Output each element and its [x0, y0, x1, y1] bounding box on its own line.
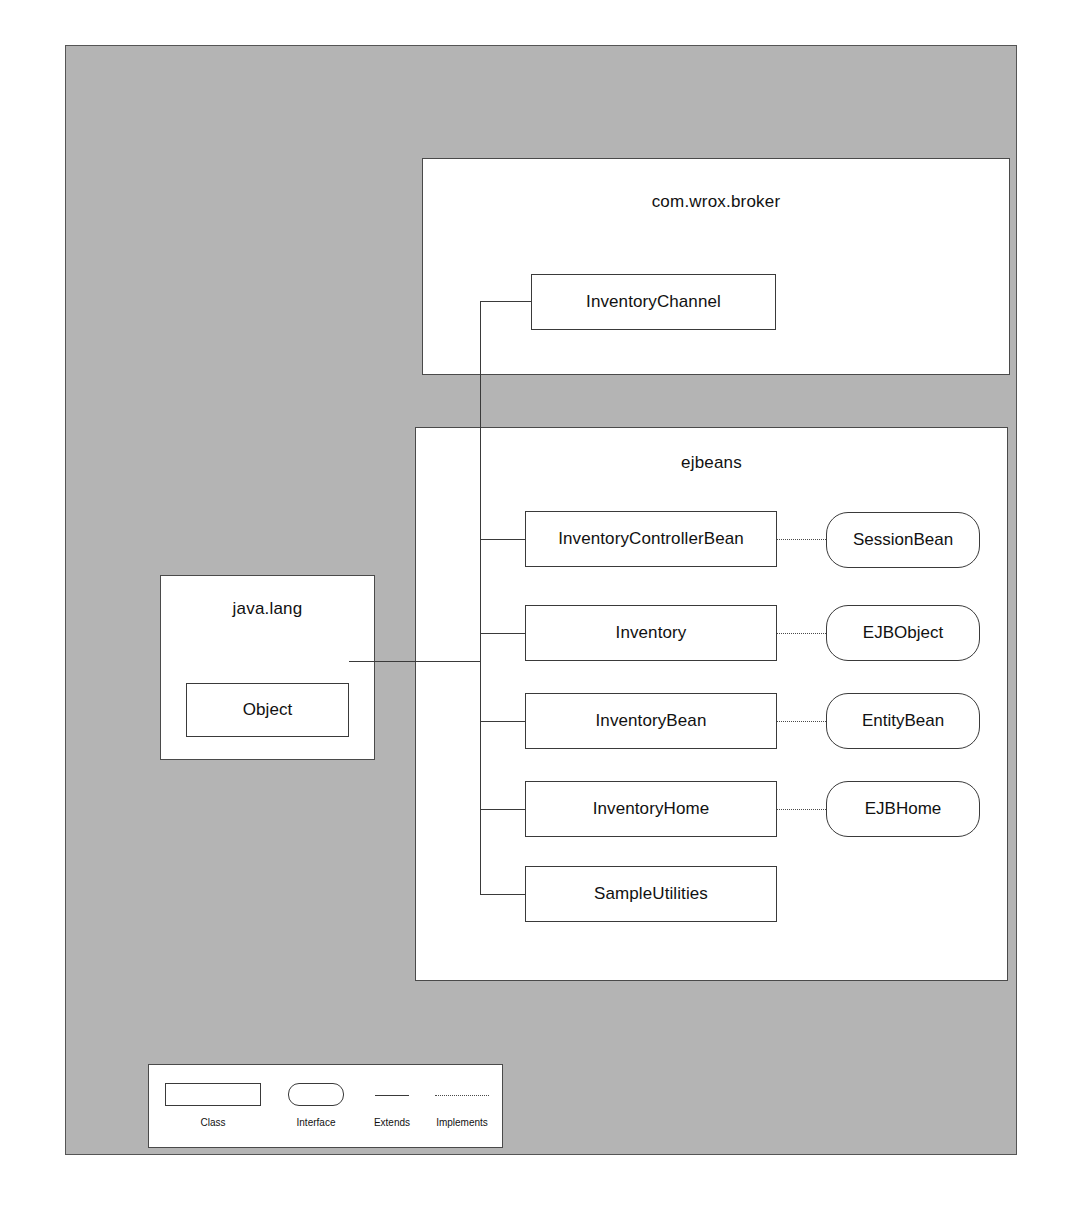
- package-title-ejbeans: ejbeans: [416, 453, 1007, 473]
- legend-label-class: Class: [157, 1117, 269, 1128]
- legend-item-interface: Interface: [273, 1065, 359, 1147]
- class-label-inventorycontrollerbean: InventoryControllerBean: [558, 529, 744, 549]
- diagram-frame: com.wrox.broker InventoryChannel ejbeans…: [65, 45, 1017, 1155]
- legend-label-interface: Interface: [273, 1117, 359, 1128]
- class-label-inventorybean: InventoryBean: [596, 711, 707, 731]
- interface-label-ejbhome: EJBHome: [865, 799, 942, 819]
- interface-box-ejbobject[interactable]: EJBObject: [826, 605, 980, 661]
- extends-edge-object-to-trunk: [349, 661, 481, 662]
- class-box-inventorycontrollerbean[interactable]: InventoryControllerBean: [525, 511, 777, 567]
- class-label-inventory: Inventory: [616, 623, 687, 643]
- legend-label-extends: Extends: [357, 1117, 427, 1128]
- extends-trunk-vertical: [480, 301, 481, 894]
- package-title-com-wrox-broker: com.wrox.broker: [423, 192, 1009, 212]
- legend-label-implements: Implements: [423, 1117, 501, 1128]
- class-box-inventory[interactable]: Inventory: [525, 605, 777, 661]
- extends-edge-inventorychannel: [480, 301, 531, 302]
- interface-box-entitybean[interactable]: EntityBean: [826, 693, 980, 749]
- class-box-inventorychannel[interactable]: InventoryChannel: [531, 274, 776, 330]
- interface-label-sessionbean: SessionBean: [853, 530, 953, 550]
- interface-box-sessionbean[interactable]: SessionBean: [826, 512, 980, 568]
- implements-edge-inventorybean-entitybean: [777, 721, 826, 722]
- implements-edge-inventorycontrollerbean-sessionbean: [777, 539, 826, 540]
- package-com-wrox-broker: com.wrox.broker: [422, 158, 1010, 375]
- class-box-inventorybean[interactable]: InventoryBean: [525, 693, 777, 749]
- implements-edge-inventoryhome-ejbhome: [777, 809, 826, 810]
- extends-edge-sampleutilities: [480, 894, 526, 895]
- implements-edge-inventory-ejbobject: [777, 633, 826, 634]
- interface-shape-icon: [288, 1083, 344, 1106]
- package-title-java-lang: java.lang: [161, 599, 374, 619]
- interface-label-entitybean: EntityBean: [862, 711, 944, 731]
- class-label-inventoryhome: InventoryHome: [593, 799, 710, 819]
- class-box-object[interactable]: Object: [186, 683, 349, 737]
- class-label-sampleutilities: SampleUtilities: [594, 884, 708, 904]
- class-box-inventoryhome[interactable]: InventoryHome: [525, 781, 777, 837]
- extends-edge-inventorybean: [480, 721, 526, 722]
- legend-item-extends: Extends: [357, 1065, 427, 1147]
- legend-item-class: Class: [157, 1065, 269, 1147]
- extends-edge-inventory: [480, 633, 526, 634]
- legend: Class Interface Extends Implements: [148, 1064, 503, 1148]
- class-label-inventorychannel: InventoryChannel: [586, 292, 721, 312]
- implements-line-icon: [435, 1095, 489, 1096]
- class-box-sampleutilities[interactable]: SampleUtilities: [525, 866, 777, 922]
- interface-label-ejbobject: EJBObject: [863, 623, 943, 643]
- class-shape-icon: [165, 1083, 261, 1106]
- legend-item-implements: Implements: [423, 1065, 501, 1147]
- extends-edge-inventorycontrollerbean: [480, 539, 526, 540]
- extends-line-icon: [375, 1095, 409, 1096]
- interface-box-ejbhome[interactable]: EJBHome: [826, 781, 980, 837]
- class-label-object: Object: [243, 700, 293, 720]
- extends-edge-inventoryhome: [480, 809, 526, 810]
- diagram-page: com.wrox.broker InventoryChannel ejbeans…: [0, 0, 1076, 1219]
